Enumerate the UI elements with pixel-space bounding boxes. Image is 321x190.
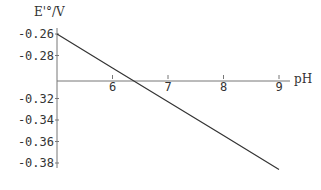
x-axis-label: pH bbox=[294, 72, 312, 86]
y-tick-label: -0.34 bbox=[18, 113, 54, 127]
axes bbox=[57, 28, 290, 168]
chart: 6789 -0.26-0.28-0.32-0.34-0.36-0.38 E'°/… bbox=[0, 0, 321, 190]
data-line bbox=[57, 34, 279, 169]
x-tick-label: 6 bbox=[109, 80, 116, 94]
x-tick-label: 7 bbox=[164, 80, 171, 94]
y-tick-label: -0.36 bbox=[18, 135, 54, 149]
y-axis-label: E'°/V bbox=[34, 5, 65, 19]
x-ticks: 6789 bbox=[109, 75, 283, 94]
y-ticks: -0.26-0.28-0.32-0.34-0.36-0.38 bbox=[18, 27, 59, 170]
y-tick-label: -0.38 bbox=[18, 156, 54, 170]
y-tick-label: -0.26 bbox=[18, 27, 54, 41]
x-tick-label: 9 bbox=[275, 80, 282, 94]
y-tick-label: -0.28 bbox=[18, 49, 54, 63]
y-tick-label: -0.32 bbox=[18, 92, 54, 106]
x-tick-label: 8 bbox=[220, 80, 227, 94]
